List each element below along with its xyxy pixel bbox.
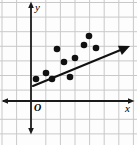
y-axis-label: y — [35, 2, 40, 13]
x-axis-label: x — [125, 103, 130, 114]
data-point — [49, 76, 56, 83]
data-point — [61, 59, 68, 66]
data-point — [67, 74, 74, 81]
data-point — [72, 55, 79, 62]
data-point — [86, 33, 93, 40]
origin-label: O — [34, 103, 41, 113]
data-point — [43, 70, 50, 77]
data-point — [54, 46, 61, 53]
scatter-plot-figure: y x O — [0, 0, 137, 145]
data-point — [81, 42, 88, 49]
data-point — [93, 45, 100, 52]
plot-background — [0, 0, 137, 145]
data-point — [33, 76, 40, 83]
plot-canvas — [0, 0, 137, 145]
